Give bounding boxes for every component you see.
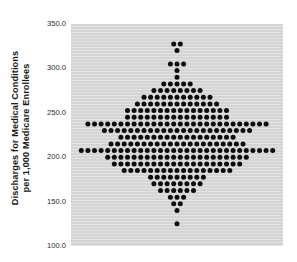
data-dot xyxy=(208,128,213,133)
data-dot xyxy=(158,148,163,153)
data-dot xyxy=(191,181,196,186)
data-dot xyxy=(211,161,216,166)
data-dot xyxy=(165,88,170,93)
data-dot xyxy=(165,115,170,120)
data-dot xyxy=(79,148,84,153)
data-dot xyxy=(155,168,160,173)
data-dot xyxy=(155,128,160,133)
data-dot xyxy=(118,155,123,160)
data-dot xyxy=(138,161,143,166)
data-dot xyxy=(161,141,166,146)
data-dot xyxy=(151,108,156,113)
data-dot xyxy=(188,128,193,133)
data-dot xyxy=(138,115,143,120)
data-dot xyxy=(168,175,173,180)
data-dot xyxy=(184,115,189,120)
data-dot xyxy=(198,155,203,160)
data-dot xyxy=(214,141,219,146)
data-dot xyxy=(138,108,143,113)
data-dot xyxy=(231,161,236,166)
data-dot xyxy=(208,168,213,173)
data-dot xyxy=(178,188,183,193)
data-dot xyxy=(171,42,176,47)
data-dot xyxy=(151,181,156,186)
data-dot xyxy=(175,175,180,180)
data-dot xyxy=(165,188,170,193)
data-dot xyxy=(175,95,180,100)
data-dot xyxy=(211,155,216,160)
data-dot xyxy=(165,148,170,153)
data-dot xyxy=(191,121,196,126)
data-dot xyxy=(171,155,176,160)
data-dot xyxy=(201,175,206,180)
data-dot xyxy=(208,95,213,100)
data-dot xyxy=(227,128,232,133)
data-dot xyxy=(145,121,150,126)
data-dot xyxy=(194,141,199,146)
data-dot xyxy=(158,135,163,140)
data-dot xyxy=(125,161,130,166)
data-dot xyxy=(221,141,226,146)
data-dot xyxy=(138,155,143,160)
data-dot xyxy=(181,81,186,86)
data-dot xyxy=(158,161,163,166)
data-dot xyxy=(128,141,133,146)
data-dot xyxy=(158,115,163,120)
data-dot xyxy=(227,168,232,173)
data-dot xyxy=(85,148,90,153)
data-dot xyxy=(155,95,160,100)
data-dot xyxy=(122,168,127,173)
data-dot xyxy=(122,141,127,146)
data-dot xyxy=(165,108,170,113)
data-dot xyxy=(224,135,229,140)
dot-plot-figure: Discharges for Medical Conditions per 1,… xyxy=(0,0,297,262)
data-dot xyxy=(244,155,249,160)
data-dot xyxy=(198,135,203,140)
data-dot xyxy=(208,141,213,146)
data-dot xyxy=(208,101,213,106)
data-dot xyxy=(145,115,150,120)
data-dot xyxy=(184,121,189,126)
data-dot xyxy=(204,161,209,166)
data-dot xyxy=(237,148,242,153)
data-dot xyxy=(247,128,252,133)
data-dot xyxy=(175,48,180,53)
data-dot xyxy=(109,128,114,133)
data-dot xyxy=(181,95,186,100)
data-dot xyxy=(161,101,166,106)
data-dot xyxy=(184,108,189,113)
dot-distribution-svg xyxy=(71,24,283,246)
data-dot xyxy=(125,108,130,113)
data-dot xyxy=(85,121,90,126)
data-dot xyxy=(241,141,246,146)
data-dot xyxy=(217,148,222,153)
data-dot xyxy=(181,195,186,200)
data-dot xyxy=(244,121,249,126)
data-dot xyxy=(168,195,173,200)
data-dot xyxy=(178,181,183,186)
data-dot xyxy=(155,141,160,146)
data-dot xyxy=(231,135,236,140)
y-tick-label: 200.0 xyxy=(18,153,66,161)
data-dot xyxy=(178,148,183,153)
data-dot xyxy=(198,121,203,126)
data-dot xyxy=(191,148,196,153)
data-dot xyxy=(165,181,170,186)
y-tick-label: 250.0 xyxy=(18,109,66,117)
data-dot xyxy=(204,148,209,153)
data-dot xyxy=(151,148,156,153)
data-dot xyxy=(237,121,242,126)
data-dot xyxy=(92,121,97,126)
data-dot xyxy=(138,121,143,126)
data-dot xyxy=(135,168,140,173)
data-dot xyxy=(171,181,176,186)
data-dot xyxy=(204,115,209,120)
y-tick-label: 100.0 xyxy=(18,242,66,250)
data-dot xyxy=(198,88,203,93)
data-dot xyxy=(178,155,183,160)
data-dot xyxy=(171,108,176,113)
data-dot xyxy=(112,161,117,166)
data-dot xyxy=(217,108,222,113)
data-dot xyxy=(178,115,183,120)
data-dot xyxy=(161,128,166,133)
